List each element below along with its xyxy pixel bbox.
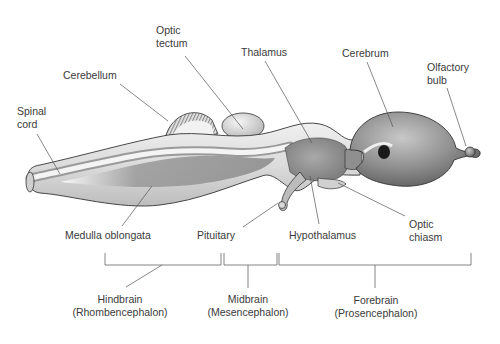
ventricle-opening [378, 145, 390, 159]
division-forebrain: Forebrain (Prosencephalon) [316, 294, 436, 319]
label-optic-tectum-line1: Optic [156, 24, 188, 37]
division-hindbrain-name: Hindbrain [60, 293, 180, 306]
label-optic-chiasm-line2: chiasm [409, 231, 442, 244]
division-hindbrain: Hindbrain (Rhombencephalon) [60, 293, 180, 318]
division-midbrain: Midbrain (Mesencephalon) [190, 293, 306, 318]
division-hindbrain-latin: (Rhombencephalon) [60, 306, 180, 319]
division-forebrain-latin: (Prosencephalon) [316, 307, 436, 320]
label-olfactory-bulb: Olfactory bulb [427, 61, 469, 86]
label-thalamus: Thalamus [241, 46, 287, 59]
label-spinal-cord-line2: cord [17, 118, 46, 131]
label-optic-chiasm-line1: Optic [409, 218, 442, 231]
thalamus-structure [285, 138, 349, 181]
division-forebrain-name: Forebrain [316, 294, 436, 307]
olfactory-bulb-structure [465, 147, 475, 157]
label-optic-chiasm: Optic chiasm [409, 218, 442, 243]
label-hypothalamus: Hypothalamus [289, 229, 356, 242]
label-medulla-oblongata: Medulla oblongata [65, 229, 151, 242]
division-midbrain-name: Midbrain [190, 293, 306, 306]
label-optic-tectum-line2: tectum [156, 37, 188, 50]
label-olfactory-bulb-line2: bulb [427, 74, 469, 87]
label-olfactory-bulb-line1: Olfactory [427, 61, 469, 74]
label-spinal-cord: Spinal cord [17, 105, 46, 130]
label-pituitary: Pituitary [197, 229, 235, 242]
label-cerebellum: Cerebellum [63, 69, 117, 82]
division-brackets [105, 253, 471, 288]
label-cerebrum: Cerebrum [342, 47, 389, 60]
label-optic-tectum: Optic tectum [156, 24, 188, 49]
brain-diagram: Optic tectum Thalamus Cerebrum Olfactory… [0, 0, 500, 344]
division-midbrain-latin: (Mesencephalon) [190, 306, 306, 319]
optic-chiasm-structure [318, 178, 346, 189]
label-spinal-cord-line1: Spinal [17, 105, 46, 118]
